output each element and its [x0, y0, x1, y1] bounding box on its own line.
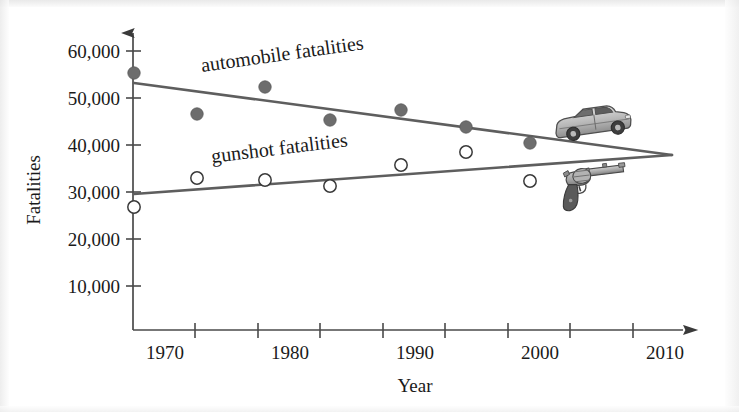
gunshot-point-1990 [395, 159, 407, 171]
revolver-icon [559, 161, 630, 211]
automobile-point-2000 [524, 137, 536, 149]
gunshot-point-1970 [128, 201, 140, 213]
x-tick-labels: 1970 1980 1990 2000 2010 [146, 342, 684, 363]
y-tick-label-60000: 60,000 [68, 41, 120, 62]
gunshot-point-1975 [191, 172, 203, 184]
y-tick-label-30000: 30,000 [68, 182, 120, 203]
automobile-point-1985 [324, 114, 336, 126]
chart-figure: 60,000 50,000 40,000 30,000 20,000 10,00… [0, 0, 739, 412]
automobile-point-1995 [460, 121, 472, 133]
y-tick-label-50000: 50,000 [68, 88, 120, 109]
x-tick-label-2010: 2010 [646, 342, 684, 363]
gunshot-point-2000 [524, 175, 536, 187]
gunshot-points-group [128, 146, 536, 213]
y-axis-title: Fatalities [23, 155, 44, 225]
gunshot-point-1995 [460, 146, 472, 158]
axis-group [133, 33, 683, 330]
y-tick-label-10000: 10,000 [68, 276, 120, 297]
scatter-plot: 60,000 50,000 40,000 30,000 20,000 10,00… [0, 0, 739, 412]
x-tick-label-1970: 1970 [146, 342, 184, 363]
x-tick-label-1980: 1980 [271, 342, 309, 363]
automobile-series-label: automobile fatalities [199, 31, 365, 76]
gunshot-point-1985 [324, 180, 336, 192]
automobile-point-1980 [259, 81, 271, 93]
automobile-point-1970 [128, 67, 140, 79]
y-tick-label-20000: 20,000 [68, 229, 120, 250]
y-tick-label-40000: 40,000 [68, 135, 120, 156]
x-axis-title: Year [397, 375, 433, 396]
car-icon [553, 103, 632, 143]
x-tick-label-1990: 1990 [396, 342, 434, 363]
y-tick-labels: 60,000 50,000 40,000 30,000 20,000 10,00… [68, 41, 120, 297]
gunshot-point-1980 [259, 174, 271, 186]
x-tick-label-2000: 2000 [521, 342, 559, 363]
gunshot-series-label: gunshot fatalities [210, 128, 349, 168]
automobile-point-1990 [395, 104, 407, 116]
automobile-point-1975 [191, 108, 203, 120]
